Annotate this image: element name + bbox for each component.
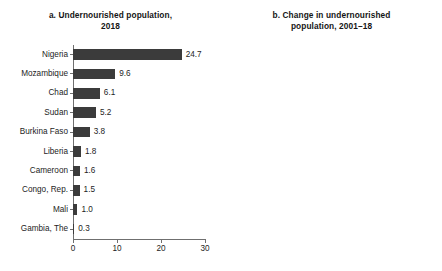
category-label: Chad — [48, 87, 68, 98]
x-axis-tick — [161, 239, 162, 243]
bar-row: Sudan5.2 — [73, 103, 205, 122]
panel-b-title-line2: population, 2001–18 — [291, 21, 372, 31]
bar — [73, 166, 80, 177]
bar — [73, 127, 90, 138]
bar-value-label: 1.8 — [85, 146, 96, 157]
panel-b-change-in-undernourished-population: b. Change in undernourished population, … — [221, 0, 442, 271]
panel-a-value-axis — [73, 239, 205, 240]
bar — [73, 146, 81, 157]
bar — [73, 88, 100, 99]
category-label: Cameroon — [30, 165, 68, 176]
bar-value-label: 5.2 — [100, 107, 111, 118]
panel-a-undernourished-population: a. Undernourished population, 2018 Niger… — [0, 0, 221, 271]
bar-value-label: 6.1 — [104, 87, 115, 98]
bar-row: Burkina Faso3.8 — [73, 123, 205, 142]
bar-row: Mali1.0 — [73, 200, 205, 219]
bar-row: Nigeria24.7 — [73, 45, 205, 64]
bar-value-label: 1.0 — [81, 204, 92, 215]
panel-b-title-line1: b. Change in undernourished — [273, 10, 391, 20]
panel-a-title-line1: a. Undernourished population, — [49, 10, 172, 20]
x-axis-tick-label: 30 — [200, 244, 209, 254]
bar-value-label: 24.7 — [186, 49, 202, 60]
panel-b-title: b. Change in undernourished population, … — [221, 10, 442, 32]
category-label: Burkina Faso — [20, 126, 68, 137]
bar — [73, 107, 96, 118]
bar-row: Mozambique9.6 — [73, 64, 205, 83]
x-axis-tick-label: 0 — [71, 244, 76, 254]
bar-value-label: 1.5 — [84, 184, 95, 195]
bar — [73, 185, 80, 196]
x-axis-tick — [117, 239, 118, 243]
category-label: Liberia — [43, 146, 68, 157]
category-label: Nigeria — [42, 49, 68, 60]
bar-value-label: 0.3 — [78, 223, 89, 234]
bar-row: Cameroon1.6 — [73, 161, 205, 180]
panel-a-title-line2: 2018 — [101, 21, 120, 31]
x-axis-tick — [73, 239, 74, 243]
bar — [73, 69, 115, 80]
bar-row: Chad6.1 — [73, 84, 205, 103]
bar-value-label: 3.8 — [94, 126, 105, 137]
category-label: Congo, Rep. — [22, 184, 68, 195]
category-label: Mozambique — [21, 68, 68, 79]
x-axis-tick-label: 10 — [112, 244, 121, 254]
bar — [73, 204, 77, 215]
x-axis-tick — [205, 239, 206, 243]
bar-row: Liberia1.8 — [73, 142, 205, 161]
category-label: Sudan — [44, 107, 68, 118]
panel-a-title: a. Undernourished population, 2018 — [0, 10, 221, 32]
two-panel-bar-figure: a. Undernourished population, 2018 Niger… — [0, 0, 442, 271]
bar — [73, 49, 182, 60]
bar-value-label: 1.6 — [84, 165, 95, 176]
category-label: Mali — [53, 204, 68, 215]
bar-row: Congo, Rep.1.5 — [73, 181, 205, 200]
category-label: Gambia, The — [21, 223, 68, 234]
bar — [73, 224, 74, 235]
bar-value-label: 9.6 — [119, 68, 130, 79]
panel-a-plot-area: Nigeria24.7Mozambique9.6Chad6.1Sudan5.2B… — [73, 45, 205, 239]
x-axis-tick-label: 20 — [156, 244, 165, 254]
bar-row: Gambia, The0.3 — [73, 220, 205, 239]
